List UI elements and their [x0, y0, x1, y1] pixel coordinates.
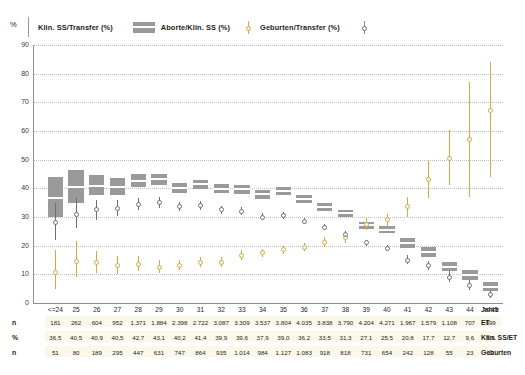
table-cell: 1.083: [296, 349, 311, 356]
table-cell: 1.371: [131, 319, 146, 326]
x-axis-tick-label: 33: [238, 306, 245, 313]
box-marker: [89, 175, 104, 195]
box-median-line: [400, 242, 415, 244]
data-point-marker: [302, 245, 307, 250]
data-point-marker: [385, 217, 390, 222]
box-marker: [462, 270, 477, 280]
y-axis-unit-label: %: [10, 20, 17, 29]
table-cell: 447: [133, 349, 143, 356]
y-axis-tick-label: 70: [13, 98, 29, 105]
plot-area: [33, 45, 503, 303]
table-cell: 40,2: [174, 334, 186, 341]
table-cell: 1.108: [441, 319, 456, 326]
table-cell: 3.087: [213, 319, 228, 326]
table-cell: 3.537: [255, 319, 270, 326]
y-axis-line: [33, 45, 34, 303]
x-axis-line: [33, 303, 503, 304]
table-cell: 41,4: [194, 334, 206, 341]
error-bar: [490, 62, 491, 177]
x-axis-tick-label: 43: [446, 306, 453, 313]
chart-legend: Klin. SS/Transfer (%) Aborte/Klin. SS (%…: [28, 16, 376, 38]
box-marker: [442, 262, 457, 271]
table-cell: 864: [195, 349, 205, 356]
box-marker: [296, 195, 311, 203]
data-point-marker: [136, 202, 141, 207]
table-cell: 952: [112, 319, 122, 326]
box-marker: [338, 210, 353, 217]
x-axis-tick-label: 30: [176, 306, 183, 313]
data-point-marker: [177, 204, 182, 209]
box-marker: [255, 190, 270, 199]
data-point-marker: [322, 225, 327, 230]
table-cell: 43,1: [153, 334, 165, 341]
table-cell: 1.014: [234, 349, 249, 356]
table-cell: 36,2: [298, 334, 310, 341]
y-axis-tick-label: 20: [13, 242, 29, 249]
table-cell: 25,5: [381, 334, 393, 341]
box-median-line: [462, 274, 477, 276]
legend-item-geburten-transfer[interactable]: Geburten/Transfer (%): [244, 21, 340, 34]
y-axis-labels: 0102030405060708090: [12, 45, 29, 303]
x-axis-title: Jahre: [481, 306, 499, 313]
table-row-key: n: [12, 349, 16, 356]
box-marker: [110, 178, 125, 194]
x-axis-tick-label: 31: [197, 306, 204, 313]
y-axis-tick-label: 60: [13, 127, 29, 134]
table-cell: 40,5: [70, 334, 82, 341]
data-point-marker: [260, 250, 265, 255]
x-axis-tick-label: 44: [466, 306, 473, 313]
box-marker: [151, 174, 166, 185]
x-axis-tick-label: 42: [425, 306, 432, 313]
table-cell: 39,9: [215, 334, 227, 341]
legend-divider: [28, 17, 29, 37]
x-axis-tick-label: 38: [342, 306, 349, 313]
gray-point-icon: [360, 21, 369, 34]
data-point-marker: [74, 212, 79, 217]
box-median-line: [296, 198, 311, 200]
box-median-line: [338, 212, 353, 214]
table-cell: 33,5: [319, 334, 331, 341]
table-cell: 189: [92, 349, 102, 356]
box-median-line: [276, 190, 291, 192]
table-cell: 36,5: [49, 334, 61, 341]
box-median-line: [234, 188, 249, 190]
y-axis-tick-label: 30: [13, 213, 29, 220]
table-cell: 3.790: [338, 319, 353, 326]
table-cell: 707: [465, 319, 475, 326]
box-marker: [214, 184, 229, 193]
table-cell: 747: [175, 349, 185, 356]
box-median-line: [193, 183, 208, 185]
legend-item-aborte-klin-ss[interactable]: Aborte/Klin. SS (%): [133, 22, 230, 33]
box-median-line: [131, 180, 146, 182]
data-point-marker: [385, 246, 390, 251]
table-cell: 12,7: [443, 334, 455, 341]
table-cell: 1.884: [151, 319, 166, 326]
table-cell: 1.967: [400, 319, 415, 326]
x-axis-tick-label: 36: [300, 306, 307, 313]
legend-label-klin-ss-transfer: Klin. SS/Transfer (%): [38, 23, 113, 32]
table-cell: 3.838: [317, 319, 332, 326]
table-cell: 4.271: [379, 319, 394, 326]
table-cell: 935: [216, 349, 226, 356]
table-cell: 20,8: [402, 334, 414, 341]
box-marker: [172, 183, 187, 193]
data-point-marker: [198, 260, 203, 265]
table-cell: 181: [50, 319, 60, 326]
data-point-marker: [467, 283, 472, 288]
data-point-marker: [136, 262, 141, 267]
gridline: [34, 131, 503, 132]
table-cell: 3.804: [276, 319, 291, 326]
box-marker: [400, 238, 415, 248]
x-axis-tick-label: 35: [280, 306, 287, 313]
y-axis-tick-label: 80: [13, 70, 29, 77]
table-cell: 2.722: [193, 319, 208, 326]
legend-item-gray-point[interactable]: [360, 21, 376, 34]
x-axis-tick-label: 34: [259, 306, 266, 313]
gridline: [34, 274, 503, 275]
table-cell: 731: [361, 349, 371, 356]
box-marker: [317, 203, 332, 211]
legend-item-klin-ss-transfer[interactable]: Klin. SS/Transfer (%): [38, 23, 113, 32]
data-point-marker: [53, 220, 58, 225]
gridline: [34, 160, 503, 161]
data-point-marker: [219, 207, 224, 212]
